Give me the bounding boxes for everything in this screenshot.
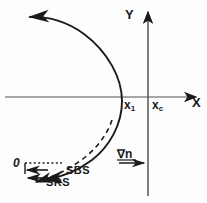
critical-point-label: xc (152, 99, 163, 111)
critical-point-subscript: c (159, 104, 163, 113)
angle-label: 0 (13, 157, 20, 169)
sbs-curve (30, 17, 122, 101)
turning-point-label: x1 (124, 99, 135, 111)
sbs-curve-label: SBS (66, 165, 90, 176)
gradient-label: ∇n (117, 148, 132, 160)
figure-container: Y X x1 xc ∇n 0 SBS SRS (0, 0, 207, 203)
turning-point-subscript: 1 (131, 104, 135, 113)
y-axis-label: Y (125, 8, 134, 21)
figure-canvas (0, 0, 207, 203)
srs-curve-label: SRS (46, 177, 70, 188)
turning-point-symbol: x (124, 98, 131, 112)
x-axis-label: X (192, 96, 201, 109)
critical-point-symbol: x (152, 98, 159, 112)
